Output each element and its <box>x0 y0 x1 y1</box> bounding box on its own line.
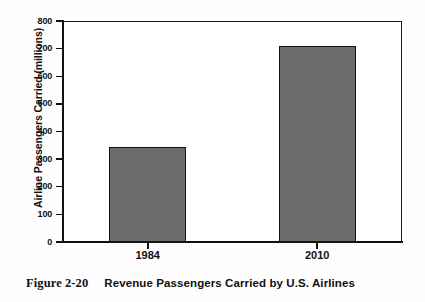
bar-2010 <box>279 46 356 242</box>
figure-caption-title: Revenue Passengers Carried by U.S. Airli… <box>104 277 355 289</box>
y-tick-600 <box>56 76 63 77</box>
y-tick-700 <box>56 48 63 49</box>
y-tick-500 <box>56 103 63 104</box>
y-tick-800 <box>56 20 63 21</box>
figure-caption-label: Figure 2-20 <box>26 276 88 290</box>
figure-container: 8007006005004003002001000 19842010 Airli… <box>0 0 425 302</box>
figure-caption: Figure 2-20Revenue Passengers Carried by… <box>26 276 355 291</box>
y-tick-label-0: 0 <box>22 238 52 247</box>
x-tick-label-2010: 2010 <box>282 250 352 261</box>
y-tick-300 <box>56 158 63 159</box>
y-axis-title: Airline Passengers Carried (millions) <box>32 8 44 228</box>
bar-1984 <box>109 147 186 242</box>
x-tick-label-1984: 1984 <box>113 250 183 261</box>
y-tick-0 <box>56 241 63 242</box>
y-tick-200 <box>56 186 63 187</box>
y-tick-100 <box>56 214 63 215</box>
y-tick-400 <box>56 131 63 132</box>
